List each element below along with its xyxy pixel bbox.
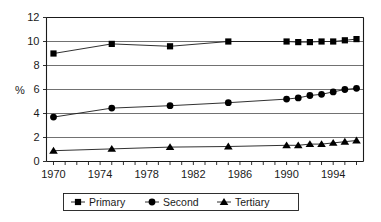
data-point-primary	[295, 39, 301, 45]
legend-label: Primary	[89, 196, 126, 208]
x-tick-label: 1974	[88, 168, 112, 180]
data-point-primary	[342, 37, 348, 43]
chart-container: 024681012 1970197419781982198619901994 %…	[0, 0, 381, 222]
data-point-second	[295, 95, 302, 102]
data-point-second	[306, 92, 313, 99]
data-point-primary	[307, 39, 313, 45]
data-point-second	[330, 89, 337, 96]
data-point-second	[108, 105, 115, 112]
chart-background	[0, 0, 381, 222]
data-point-primary	[50, 50, 56, 56]
y-tick-label: 12	[27, 11, 39, 23]
data-point-primary	[225, 38, 231, 44]
data-point-second	[353, 85, 360, 92]
x-tick-label: 1986	[228, 168, 252, 180]
chart-legend: PrimarySecondTertiary	[64, 194, 299, 211]
data-point-primary	[353, 36, 359, 42]
x-tick-label: 1982	[181, 168, 205, 180]
x-tick-label: 1978	[134, 168, 158, 180]
data-point-primary	[330, 38, 336, 44]
line-chart: 024681012 1970197419781982198619901994 %…	[0, 0, 381, 222]
x-tick-label: 1990	[274, 168, 298, 180]
data-point-second	[283, 96, 290, 103]
data-point-second	[167, 102, 174, 109]
y-tick-label: 10	[27, 35, 39, 47]
data-point-primary	[283, 38, 289, 44]
y-tick-label: 6	[33, 83, 39, 95]
y-tick-label: 8	[33, 59, 39, 71]
data-point-second	[318, 91, 325, 98]
legend-marker-square	[75, 199, 81, 205]
data-point-primary	[318, 38, 324, 44]
y-tick-label: 0	[33, 155, 39, 167]
data-point-second	[225, 99, 232, 106]
data-point-second	[50, 114, 57, 121]
y-tick-label: 4	[33, 107, 39, 119]
x-tick-label: 1994	[321, 168, 345, 180]
legend-label: Tertiary	[235, 196, 270, 208]
x-tick-label: 1970	[41, 168, 65, 180]
legend-label: Second	[163, 196, 199, 208]
data-point-second	[341, 86, 348, 93]
legend-marker-circle	[149, 199, 156, 206]
data-point-primary	[109, 41, 115, 47]
y-tick-label: 2	[33, 131, 39, 143]
data-point-primary	[167, 43, 173, 49]
y-axis-title: %	[15, 84, 25, 96]
